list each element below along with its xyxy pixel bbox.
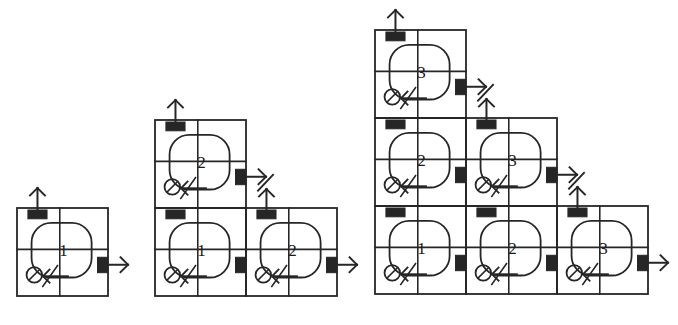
cell-number: 3 bbox=[599, 239, 608, 258]
cell-control-slash bbox=[29, 270, 39, 280]
top-port[interactable] bbox=[257, 210, 276, 219]
systolic-array-figure: 1212323123 bbox=[0, 0, 678, 325]
arrow-head-stroke bbox=[486, 99, 494, 107]
arrow-head-stroke bbox=[479, 79, 487, 87]
cell-control-slash bbox=[167, 270, 177, 280]
arrow-head-stroke bbox=[272, 270, 279, 277]
cell-2-r1-c0: 2 bbox=[155, 120, 246, 208]
cell-number: 3 bbox=[508, 151, 517, 170]
cell-number: 1 bbox=[197, 241, 206, 260]
arrow-head-stroke bbox=[492, 180, 499, 187]
right-port[interactable] bbox=[547, 255, 557, 270]
arrow-head-stroke bbox=[181, 182, 188, 189]
arrow-head-stroke bbox=[175, 100, 183, 108]
cell-control-slash bbox=[387, 180, 397, 190]
output-arrow-right-diagonal bbox=[465, 79, 493, 101]
output-arrow-right bbox=[336, 257, 357, 272]
input-arrow-up bbox=[570, 187, 585, 207]
arrow-head-stroke bbox=[570, 187, 578, 195]
arrow-head-stroke bbox=[350, 265, 358, 273]
top-port[interactable] bbox=[386, 32, 405, 41]
arrow-head-stroke bbox=[492, 268, 499, 275]
group-1: 1 bbox=[17, 188, 128, 296]
arrow-head-stroke bbox=[661, 255, 669, 263]
right-port[interactable] bbox=[236, 257, 246, 272]
input-arrow-up bbox=[479, 99, 494, 119]
cell-1-r0-c0: 1 bbox=[17, 208, 108, 296]
arrow-head-stroke bbox=[181, 270, 188, 277]
output-arrow-right bbox=[647, 255, 668, 270]
arrow-head-stroke bbox=[577, 187, 585, 195]
output-arrow-right-diagonal bbox=[556, 167, 584, 189]
right-port[interactable] bbox=[456, 167, 466, 182]
arrow-head-stroke bbox=[388, 10, 396, 18]
output-arrow-up bbox=[168, 100, 183, 121]
arrow-head-stroke bbox=[401, 92, 408, 99]
arrow-head-stroke bbox=[395, 10, 403, 18]
top-port[interactable] bbox=[477, 120, 496, 129]
cell-2-r0-c1: 2 bbox=[466, 206, 557, 294]
cell-1-r0-c0: 1 bbox=[155, 208, 246, 296]
cell-control-slash bbox=[258, 270, 268, 280]
cell-number: 1 bbox=[59, 241, 68, 260]
top-port[interactable] bbox=[28, 210, 47, 219]
top-port[interactable] bbox=[568, 208, 587, 217]
cell-control-slash bbox=[569, 268, 579, 278]
output-arrow-up bbox=[388, 10, 403, 31]
right-port[interactable] bbox=[456, 255, 466, 270]
arrow-head-stroke bbox=[661, 263, 669, 271]
arrow-head-stroke bbox=[401, 180, 408, 187]
arrow-head-stroke bbox=[583, 268, 590, 275]
cell-2-r1-c0: 2 bbox=[375, 118, 466, 206]
arrow-head-stroke bbox=[570, 167, 578, 175]
arrow-head-stroke bbox=[479, 99, 487, 107]
arrow-head-stroke bbox=[121, 257, 129, 265]
cell-number: 3 bbox=[417, 63, 426, 82]
top-port[interactable] bbox=[386, 208, 405, 217]
arrow-head-stroke bbox=[168, 100, 176, 108]
output-arrow-up bbox=[30, 188, 45, 209]
cell-control-slash bbox=[387, 92, 397, 102]
output-arrow-right-diagonal bbox=[245, 169, 273, 191]
cell-2-r0-c1: 2 bbox=[246, 208, 337, 296]
arrow-head-stroke bbox=[30, 188, 37, 196]
input-arrow-up bbox=[259, 189, 274, 209]
top-port[interactable] bbox=[166, 210, 185, 219]
arrow-head-stroke bbox=[259, 169, 267, 177]
cell-control-slash bbox=[167, 182, 177, 192]
cell-1-r0-c0: 1 bbox=[375, 206, 466, 294]
top-port[interactable] bbox=[166, 122, 185, 131]
arrow-head-stroke bbox=[266, 189, 274, 197]
group-2: 212 bbox=[155, 100, 357, 296]
arrow-head-stroke bbox=[121, 265, 129, 273]
cell-number: 2 bbox=[197, 153, 206, 172]
cell-3-r1-c1: 3 bbox=[466, 118, 557, 206]
output-arrow-right bbox=[107, 257, 128, 272]
cell-control-slash bbox=[478, 180, 488, 190]
arrow-head-stroke bbox=[350, 257, 358, 265]
cell-number: 2 bbox=[288, 241, 297, 260]
cell-number: 2 bbox=[417, 151, 426, 170]
diagram-canvas: 1212323123 bbox=[0, 0, 678, 325]
arrow-head-stroke bbox=[259, 189, 267, 197]
cell-control-slash bbox=[478, 268, 488, 278]
cell-3-r0-c2: 3 bbox=[557, 206, 648, 294]
arrow-head-stroke bbox=[401, 268, 408, 275]
cell-3-r2-c0: 3 bbox=[375, 30, 466, 118]
arrow-head-stroke bbox=[37, 188, 45, 196]
arrow-head-stroke bbox=[43, 270, 50, 277]
cell-control-slash bbox=[387, 268, 397, 278]
cell-number: 2 bbox=[508, 239, 517, 258]
top-port[interactable] bbox=[477, 208, 496, 217]
cell-number: 1 bbox=[417, 239, 426, 258]
top-port[interactable] bbox=[386, 120, 405, 129]
group-3: 323123 bbox=[375, 10, 668, 294]
